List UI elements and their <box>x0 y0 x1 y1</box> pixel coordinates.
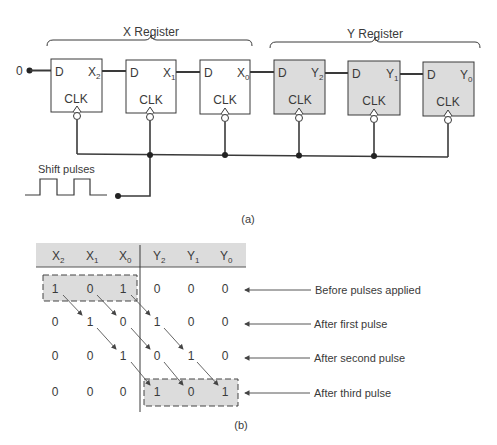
svg-text:1: 1 <box>188 349 195 363</box>
svg-text:0: 0 <box>188 315 195 329</box>
svg-text:0: 0 <box>120 315 127 329</box>
svg-text:1: 1 <box>154 385 161 399</box>
svg-text:D: D <box>55 65 64 79</box>
svg-text:0: 0 <box>154 349 161 363</box>
svg-text:CLK: CLK <box>288 93 311 107</box>
part-b: X2 X1 X0 Y2 Y1 Y0 101 000 010 100 001 01… <box>36 243 421 431</box>
x-register-label: X Register <box>123 25 179 39</box>
junction-dots <box>115 152 377 199</box>
y-register-label: Y Register <box>347 27 403 41</box>
svg-text:1: 1 <box>52 282 59 296</box>
svg-text:X: X <box>88 65 96 79</box>
svg-text:0: 0 <box>188 385 195 399</box>
row-label: After first pulse <box>314 318 387 330</box>
row-labels: Before pulses applied After first pulse … <box>314 284 421 399</box>
svg-text:D: D <box>130 66 139 80</box>
svg-text:0: 0 <box>154 282 161 296</box>
svg-text:2: 2 <box>319 73 324 82</box>
svg-text:CLK: CLK <box>213 93 236 107</box>
flipflop-x2: D X 2 CLK <box>51 59 102 112</box>
row-label: After second pulse <box>314 352 405 364</box>
svg-text:0: 0 <box>222 282 229 296</box>
svg-text:D: D <box>427 68 436 82</box>
row-label: Before pulses applied <box>315 284 421 296</box>
svg-text:1: 1 <box>120 282 127 296</box>
svg-text:Y: Y <box>460 68 468 82</box>
svg-text:1: 1 <box>171 73 176 82</box>
svg-text:0: 0 <box>127 256 132 265</box>
svg-text:Y: Y <box>311 66 319 80</box>
flipflop-x0: D X 0 CLK <box>200 60 250 114</box>
pulse-waveform <box>25 179 107 195</box>
svg-text:D: D <box>278 66 287 80</box>
svg-text:CLK: CLK <box>436 95 459 109</box>
svg-text:0: 0 <box>52 349 59 363</box>
svg-text:Y: Y <box>386 67 394 81</box>
svg-text:CLK: CLK <box>64 92 87 106</box>
svg-text:0: 0 <box>245 73 250 82</box>
svg-text:0: 0 <box>222 349 229 363</box>
label-arrows <box>245 290 311 393</box>
svg-text:0: 0 <box>87 385 94 399</box>
svg-text:0: 0 <box>87 282 94 296</box>
svg-text:2: 2 <box>161 256 166 265</box>
svg-text:0: 0 <box>228 256 233 265</box>
svg-text:0: 0 <box>468 75 473 84</box>
svg-text:0: 0 <box>120 385 127 399</box>
svg-text:1: 1 <box>222 385 229 399</box>
svg-text:0: 0 <box>87 349 94 363</box>
svg-text:CLK: CLK <box>362 94 385 108</box>
flipflop-y1: D Y 1 CLK <box>348 61 400 115</box>
flipflop-y2: D Y 2 CLK <box>274 60 325 114</box>
svg-text:2: 2 <box>60 256 65 265</box>
svg-text:0: 0 <box>52 315 59 329</box>
svg-text:1: 1 <box>87 315 94 329</box>
svg-text:1: 1 <box>195 256 200 265</box>
svg-text:Y: Y <box>220 249 228 263</box>
svg-text:2: 2 <box>96 72 101 81</box>
flipflop-y0: D Y 0 CLK <box>423 62 474 116</box>
svg-text:1: 1 <box>94 256 99 265</box>
table-header <box>36 243 246 267</box>
svg-text:0: 0 <box>188 282 195 296</box>
svg-text:Y: Y <box>153 249 161 263</box>
svg-text:D: D <box>352 67 361 81</box>
caption-a: (a) <box>241 213 254 225</box>
svg-text:X: X <box>119 249 127 263</box>
shift-pulses-label: Shift pulses <box>38 163 95 175</box>
clock-bus <box>77 120 448 196</box>
svg-text:X: X <box>86 249 94 263</box>
svg-text:X: X <box>237 66 245 80</box>
svg-text:0: 0 <box>52 385 59 399</box>
svg-text:X: X <box>163 66 171 80</box>
svg-text:0: 0 <box>222 315 229 329</box>
svg-text:1: 1 <box>394 74 399 83</box>
svg-text:Y: Y <box>187 249 195 263</box>
part-a: X Register Y Register 0 D X 2 CLK D X 1 … <box>16 25 480 225</box>
svg-text:CLK: CLK <box>139 93 162 107</box>
shift-register-diagram: X Register Y Register 0 D X 2 CLK D X 1 … <box>0 0 497 445</box>
serial-input-value: 0 <box>16 64 23 78</box>
svg-text:D: D <box>204 66 213 80</box>
row-label: After third pulse <box>314 387 391 399</box>
svg-text:1: 1 <box>120 349 127 363</box>
flipflop-x1: D X 1 CLK <box>126 60 176 113</box>
svg-text:X: X <box>52 249 60 263</box>
caption-b: (b) <box>234 419 247 431</box>
svg-text:1: 1 <box>154 315 161 329</box>
